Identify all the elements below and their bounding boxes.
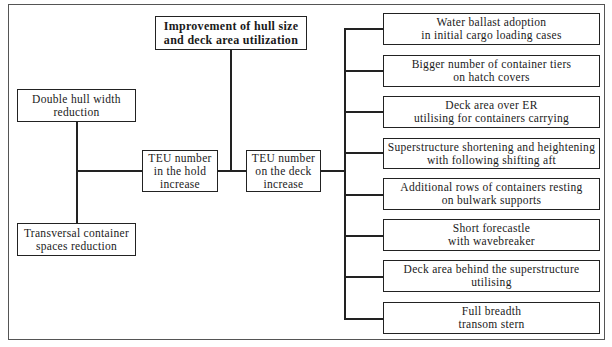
goal-box: Improvement of hull size and deck area u…: [155, 16, 307, 50]
measure-7-line-2: utilising: [471, 276, 511, 289]
measure-5-line-2: on bulwark supports: [442, 194, 542, 207]
measure-7-line-1: Deck area behind the superstructure: [404, 263, 580, 276]
measure-box-7: Deck area behind the superstructure util…: [383, 260, 600, 292]
measure-1-line-1: Water ballast adoption: [437, 16, 547, 29]
measure-8-line-1: Full breadth: [462, 305, 522, 318]
connector-goal-down: [230, 49, 232, 170]
measure-4-line-2: with following shifting aft: [427, 154, 556, 167]
measure-1-line-2: in initial cargo loading cases: [421, 29, 561, 42]
branch-3: [344, 111, 383, 113]
double-hull-box: Double hull width reduction: [17, 89, 136, 122]
connector-left-to-hold: [76, 170, 142, 172]
measure-box-4: Superstructure shortening and heightenin…: [383, 138, 600, 169]
measure-box-1: Water ballast adoption in initial cargo …: [383, 13, 600, 45]
transversal-box: Transversal container spaces reduction: [17, 223, 136, 256]
transversal-line-2: spaces reduction: [36, 240, 117, 253]
measure-4-line-1: Superstructure shortening and heightenin…: [388, 141, 595, 154]
branch-8: [344, 318, 383, 320]
measure-8-line-2: transom stern: [458, 318, 524, 331]
deck-line-2: on the deck: [255, 165, 311, 178]
measure-box-2: Bigger number of container tiers on hatc…: [383, 55, 600, 87]
double-hull-line-1: Double hull width: [32, 93, 121, 106]
measure-box-8: Full breadth transom stern: [383, 302, 600, 334]
measure-box-3: Deck area over ER utilising for containe…: [383, 96, 600, 128]
connector-deck-to-bus: [320, 170, 345, 172]
measure-3-line-1: Deck area over ER: [445, 99, 537, 112]
branch-2: [344, 70, 383, 72]
measure-6-line-1: Short forecastle: [453, 222, 530, 235]
branch-5: [344, 194, 383, 196]
measure-3-line-2: utilising for containers carrying: [414, 112, 569, 125]
transversal-line-1: Transversal container: [24, 227, 129, 240]
measure-5-line-1: Additional rows of containers resting: [400, 181, 582, 194]
measure-box-6: Short forecastle with wavebreaker: [383, 219, 600, 251]
branch-7: [344, 276, 383, 278]
measure-box-5: Additional rows of containers resting on…: [383, 178, 600, 210]
hold-line-2: in the hold: [154, 165, 207, 178]
connector-left-vertical: [76, 121, 78, 224]
hold-increase-box: TEU number in the hold increase: [142, 150, 218, 192]
hold-line-3: increase: [160, 178, 200, 191]
deck-line-3: increase: [263, 178, 303, 191]
goal-line-1: Improvement of hull size: [164, 19, 299, 33]
branch-4: [344, 152, 383, 154]
deck-line-1: TEU number: [252, 152, 315, 165]
measure-6-line-2: with wavebreaker: [448, 235, 535, 248]
branch-1: [344, 28, 383, 30]
goal-line-2: and deck area utilization: [164, 33, 298, 47]
double-hull-line-2: reduction: [53, 106, 99, 119]
measure-2-line-2: on hatch covers: [453, 71, 530, 84]
hold-line-1: TEU number: [148, 152, 211, 165]
deck-increase-box: TEU number on the deck increase: [246, 150, 321, 192]
branch-6: [344, 235, 383, 237]
measure-2-line-1: Bigger number of container tiers: [412, 58, 572, 71]
connector-right-bus: [344, 28, 346, 318]
connector-hold-to-deck: [217, 170, 246, 172]
